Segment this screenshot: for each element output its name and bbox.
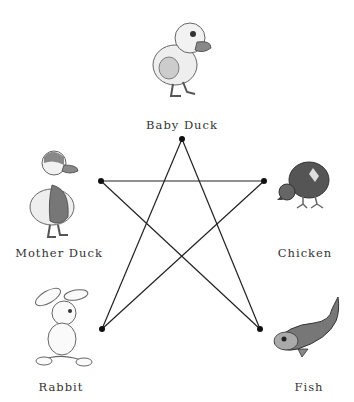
dot-baby-duck — [179, 136, 185, 142]
fish-icon — [268, 295, 343, 360]
baby-duck-icon — [145, 10, 215, 100]
label-baby-duck: Baby Duck — [146, 118, 218, 132]
dot-rabbit — [99, 326, 105, 332]
dot-fish — [257, 326, 263, 332]
dot-chicken — [261, 178, 267, 184]
rabbit-icon — [30, 285, 95, 370]
mother-duck-icon — [22, 145, 82, 240]
label-chicken: Chicken — [278, 246, 333, 260]
star-diagram: Baby Duck Mother Duck Chicken Rabbit — [0, 0, 354, 402]
label-fish: Fish — [295, 380, 324, 394]
label-rabbit: Rabbit — [39, 380, 84, 394]
dot-mother-duck — [98, 178, 104, 184]
label-mother-duck: Mother Duck — [15, 246, 103, 260]
chicken-icon — [275, 152, 335, 212]
